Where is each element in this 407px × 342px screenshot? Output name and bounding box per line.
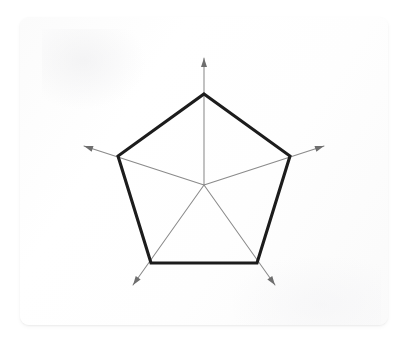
radar-axes-group <box>84 58 324 285</box>
radar-axis-line-1 <box>204 146 324 185</box>
radar-axis-arrowhead-1 <box>315 146 324 152</box>
radar-axis-arrowhead-3 <box>133 276 141 285</box>
radar-axis-arrowhead-4 <box>84 146 93 152</box>
radar-chart <box>0 0 407 342</box>
radar-axis-arrowhead-2 <box>267 276 275 285</box>
radar-axis-line-4 <box>84 146 204 185</box>
figure-canvas <box>0 0 407 342</box>
radar-axis-arrowhead-0 <box>201 58 207 67</box>
